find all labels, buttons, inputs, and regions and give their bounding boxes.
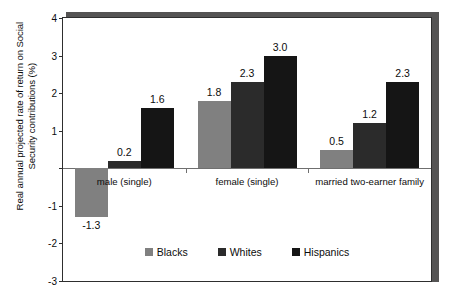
- plot-frame-shadow-right: [432, 12, 439, 282]
- legend-swatch-icon: [218, 248, 226, 256]
- zero-baseline: [63, 168, 431, 169]
- y-axis-tick-mark: [59, 281, 63, 282]
- bar-value-label: 3.0: [273, 41, 288, 53]
- bar-value-label: -1.3: [82, 219, 100, 231]
- bar-chart-figure: Real annual projected rate of return on …: [0, 0, 452, 298]
- bar-blacks-2: [320, 150, 353, 169]
- legend-label: Blacks: [157, 246, 188, 258]
- legend-label: Hispanics: [304, 246, 350, 258]
- bar-whites-2: [353, 123, 386, 168]
- legend-item-whites[interactable]: Whites: [218, 246, 262, 258]
- y-axis-tick-mark: [59, 206, 63, 207]
- bar-value-label: 0.5: [329, 135, 344, 147]
- y-axis-tick-mark: [59, 131, 63, 132]
- plot-area: 4321-1-2-3 -1.30.21.61.82.33.00.51.22.3 …: [62, 17, 432, 282]
- bar-value-label: 1.2: [362, 108, 377, 120]
- y-axis-tick-label: -1: [48, 200, 57, 211]
- bar-value-label: 2.3: [240, 67, 255, 79]
- y-axis-tick-label: 1: [51, 125, 57, 136]
- y-axis-title: Real annual projected rate of return on …: [14, 4, 38, 228]
- bar-value-label: 1.6: [150, 93, 165, 105]
- legend-label: Whites: [230, 246, 262, 258]
- bar-whites-0: [108, 161, 141, 169]
- y-axis-tick-mark: [59, 243, 63, 244]
- legend-item-hispanics[interactable]: Hispanics: [292, 246, 350, 258]
- y-axis-tick-label: 2: [51, 88, 57, 99]
- bar-value-label: 1.8: [207, 86, 222, 98]
- legend-item-blacks[interactable]: Blacks: [145, 246, 188, 258]
- bar-blacks-1: [198, 101, 231, 169]
- category-label: married two-earner family: [315, 176, 424, 187]
- y-axis-tick-mark: [59, 18, 63, 19]
- group-separator-tick: [186, 168, 187, 173]
- bar-value-label: 0.2: [117, 146, 132, 158]
- y-axis-tick-label: 4: [51, 13, 57, 24]
- y-axis-tick-label: -2: [48, 238, 57, 249]
- category-label: male (single): [97, 176, 152, 187]
- y-axis-tick-label: -3: [48, 276, 57, 287]
- bar-value-label: 2.3: [395, 67, 410, 79]
- y-axis-tick-mark: [59, 56, 63, 57]
- legend-swatch-icon: [292, 248, 300, 256]
- bar-hispanics-2: [386, 82, 419, 168]
- group-separator-tick: [308, 168, 309, 173]
- bar-hispanics-1: [264, 56, 297, 169]
- bar-whites-1: [231, 82, 264, 168]
- chart-legend: BlacksWhitesHispanics: [63, 246, 431, 258]
- y-axis-tick-label: 3: [51, 50, 57, 61]
- category-label: female (single): [216, 176, 279, 187]
- legend-swatch-icon: [145, 248, 153, 256]
- y-axis-tick-mark: [59, 93, 63, 94]
- bar-hispanics-0: [141, 108, 174, 168]
